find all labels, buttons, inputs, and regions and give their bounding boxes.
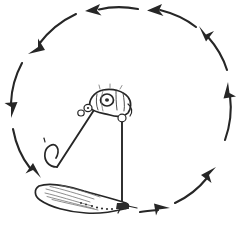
speckle-4 xyxy=(106,208,108,210)
speckle-3 xyxy=(101,207,103,209)
speckle-2 xyxy=(96,206,98,208)
figure-root: Hand-drawn illustration of a suspended a… xyxy=(0,0,242,229)
speckle-6 xyxy=(85,204,87,206)
illustration-canvas: Hand-drawn illustration of a suspended a… xyxy=(0,0,242,229)
speckle-5 xyxy=(111,208,113,210)
thorax-bead-2 xyxy=(78,110,84,116)
speckle-1 xyxy=(91,205,93,207)
speckle-7 xyxy=(80,202,82,204)
rear-eye-ring xyxy=(118,114,126,122)
eye-center-dot xyxy=(105,98,109,102)
thorax-bead-1-dot xyxy=(87,107,89,109)
tail-knot-block xyxy=(116,203,129,209)
